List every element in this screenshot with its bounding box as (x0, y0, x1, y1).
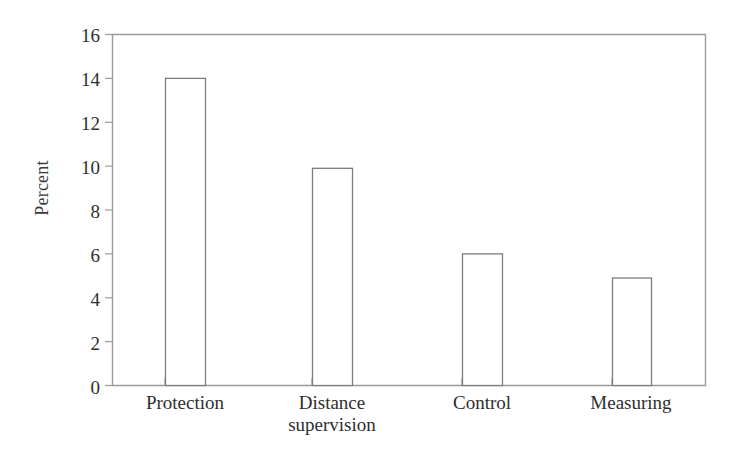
bar-control (463, 254, 503, 386)
bar-measuring (613, 278, 652, 385)
bar-chart: Percent 16 14 12 10 8 6 4 2 0 Protection… (0, 0, 743, 458)
x-tick-marks (165, 378, 651, 386)
bars-group (166, 78, 652, 385)
bar-distance-supervision (313, 168, 353, 385)
plot-area (0, 0, 743, 458)
y-tick-marks (105, 35, 112, 386)
bar-protection (166, 78, 206, 385)
